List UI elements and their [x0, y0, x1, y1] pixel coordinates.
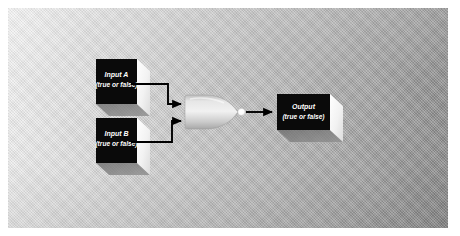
input-a-node[interactable]: Input A (true or false)	[95, 47, 150, 116]
input-b-label-primary: Input B	[104, 130, 128, 138]
input-a-label-primary: Input A	[105, 71, 129, 79]
output-label-primary: Output	[292, 103, 316, 111]
output-label-secondary: (true or false)	[282, 113, 324, 121]
and-gate[interactable]	[185, 95, 245, 129]
gate-body	[185, 95, 238, 129]
output-node[interactable]: Output (true or false)	[277, 94, 343, 142]
input-b-node[interactable]: Input B (true or false)	[95, 118, 150, 175]
input-b-label-secondary: (true or false)	[95, 140, 137, 148]
diagram-stage: Input A (true or false) Input B (true or…	[0, 0, 460, 236]
gate-output-dot	[238, 108, 245, 115]
diagram-root: Input A (true or false) Input B (true or…	[0, 0, 460, 236]
